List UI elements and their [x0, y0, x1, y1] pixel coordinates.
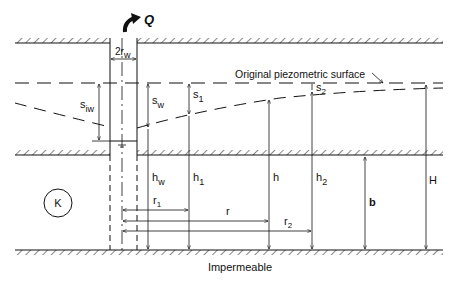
discharge-arrow: [125, 13, 141, 32]
original-surface-label: Original piezometric surface: [235, 68, 365, 80]
r-1-label: r1: [153, 194, 162, 209]
r-label: r: [226, 205, 230, 217]
aquifer-diagram: Q 2rw Original piezometric surface siw s…: [0, 0, 458, 283]
well: [110, 38, 137, 250]
well-diameter-label: 2rw: [115, 46, 131, 60]
drawdown-curve: [15, 103, 110, 127]
h-w-label: hw: [152, 171, 165, 187]
original-surface-leader: [372, 73, 383, 83]
impermeable-label: Impermeable: [208, 261, 272, 273]
impermeable-base: [15, 250, 443, 255]
drawdown-curve-right: [137, 88, 443, 128]
s-1-label: s1: [193, 88, 204, 104]
h-label: h: [273, 171, 279, 183]
ground-surface: [15, 38, 443, 43]
s-iw-label: siw: [80, 98, 94, 114]
aquifer-top-boundary: [15, 150, 443, 155]
discharge-label: Q: [144, 12, 154, 27]
h-2-label: h2: [316, 171, 327, 187]
s-w-label: sw: [152, 94, 165, 110]
b-label: b: [369, 196, 376, 208]
r-2-label: r2: [284, 215, 293, 230]
h-1-label: h1: [193, 171, 204, 187]
conductivity-label: K: [54, 197, 62, 209]
H-label: H: [429, 174, 437, 186]
